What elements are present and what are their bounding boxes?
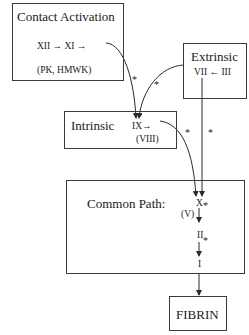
fibrin-box: FIBRIN [169, 296, 227, 331]
star-marker-vii-ix: * [154, 80, 159, 90]
extrinsic-box: Extrinsic VII ← III [183, 43, 247, 99]
extrinsic-title: Extrinsic [191, 50, 238, 63]
intrinsic-box: Intrinsic IX→ (VIII) [64, 111, 177, 149]
common-path-title: Common Path: [87, 197, 165, 210]
factor-x: X [196, 199, 203, 209]
extrinsic-sequence: VII ← III [194, 68, 231, 78]
contact-cofactors: (PK, HMWK) [37, 66, 91, 76]
contact-sequence: XII → XI → [37, 42, 86, 52]
intrinsic-cofactor-viii: (VIII) [136, 135, 159, 145]
contact-activation-box: Contact Activation XII → XI → (PK, HMWK) [12, 3, 124, 81]
fibrin-label: FIBRIN [176, 308, 219, 321]
star-marker-vii-x: * [208, 128, 213, 138]
star-marker-xi-ix: * [132, 75, 137, 85]
common-path-box: Common Path: X (V) II I [66, 180, 245, 274]
cofactor-v: (V) [181, 210, 194, 220]
contact-activation-title: Contact Activation [17, 10, 115, 23]
star-marker-ii-i: * [203, 236, 208, 246]
intrinsic-factor-ix: IX→ [132, 122, 152, 132]
factor-i: I [198, 260, 201, 270]
star-marker-x-ii: * [203, 201, 208, 211]
intrinsic-title: Intrinsic [71, 119, 114, 132]
star-marker-ix-x: * [185, 128, 190, 138]
